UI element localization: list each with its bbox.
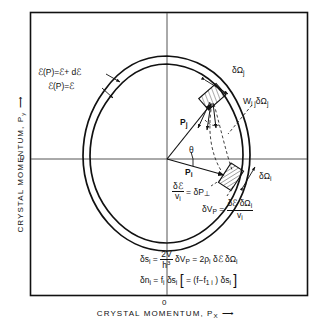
x-axis-label: CRYSTAL MOMENTUM, PX ⟶ <box>58 310 273 319</box>
leader-inner-contour <box>102 88 113 98</box>
equation-delta-s: δsi = 2V h3 δVP = 2ρi δℰ δΩi <box>140 250 238 270</box>
equation-delta-n: δni = fi δsi [ = (f−f1 i ) δsi ] <box>140 273 237 287</box>
omega-j-label: δΩj <box>232 66 245 76</box>
vector-pi <box>167 159 224 175</box>
omega-i-label: δΩi <box>259 172 272 182</box>
vector-pj-label: Pj <box>180 118 188 128</box>
theta-label: θ <box>189 146 194 155</box>
x-origin-label: 0 <box>162 299 166 307</box>
wij-label: Wi jδΩj <box>243 97 268 107</box>
cell-j <box>199 83 226 109</box>
contour-label-outer: ℰ(P)=ℰ+ dℰ <box>38 68 81 77</box>
delta-vp-label: δVP = δℰ δΩi vi <box>202 199 253 221</box>
contour-label-inner: ℰ(P)=ℰ <box>48 82 74 91</box>
y-origin-label: 0 <box>20 154 24 162</box>
y-axis-label: CRYSTAL MOMENTUM, Py ⟶ <box>17 57 26 272</box>
scatter-spread-dashed-1 <box>210 104 222 172</box>
vector-pi-label: Pi <box>185 168 193 178</box>
scatter-spread-dashed-2 <box>214 104 232 170</box>
figure-root: CRYSTAL MOMENTUM, PX ⟶ 0 CRYSTAL MOMENTU… <box>0 0 318 328</box>
